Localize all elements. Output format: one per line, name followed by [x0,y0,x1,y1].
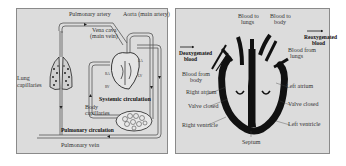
label-blood-to-body-2: body [274,19,286,25]
label-left-ventricle: Left ventricle [288,121,320,127]
label-lung-capillaries-1: Lung [17,75,30,81]
label-aorta: Aorta (main artery) [123,11,170,17]
label-blood-from-lungs-2: lungs [290,53,303,59]
label-pulmonary-artery: Pulmonary artery [69,11,111,17]
label-valve-closed-left: Valve closed [188,103,219,109]
label-lv: LV [138,74,142,78]
label-right-atrium: Right atrium [186,89,217,95]
label-left-atrium: Left atrium [286,83,313,89]
label-valve-closed-right: Valve closed [288,101,319,107]
label-pulmonary-circulation: Pulmonary circulation [61,127,114,133]
label-systemic-circulation: Systemic circulation [99,96,151,102]
label-la: LA [138,59,143,63]
label-reoxygenated-2: blood [312,40,325,46]
label-blood-to-lungs-2: lungs [241,19,254,25]
label-rv: RV [105,85,110,89]
label-deoxygenated-2: blood [184,56,197,62]
label-right-ventricle: Right ventricle [182,122,218,128]
heart-cross-section-panel: Deoxygenated blood Reoxygenated blood Bl… [175,8,330,154]
label-body-capillaries-2: capillaries [85,110,110,116]
label-ra: RA [105,72,110,76]
circulation-diagram-panel: Pulmonary artery Aorta (main artery) Ven… [16,8,168,154]
label-vena-cava-2: (main vein) [90,33,118,39]
label-blood-from-body-2: body [190,77,202,83]
label-lung-capillaries-2: capillaries [17,82,42,88]
label-pulmonary-vein: Pulmonary vein [61,142,99,148]
label-septum: Septum [242,139,260,145]
